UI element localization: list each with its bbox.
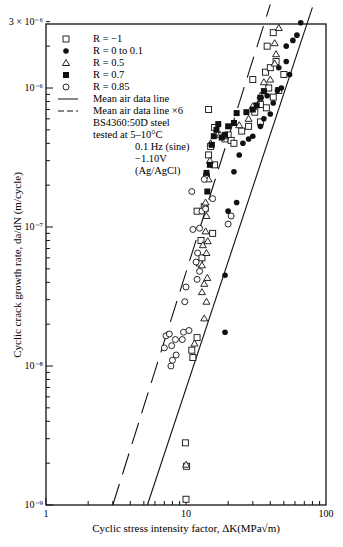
data-point bbox=[270, 94, 276, 100]
test-conditions-annotation: BS4360:50D steeltested at 5–10°C0.1 Hz (… bbox=[93, 117, 190, 177]
data-point bbox=[194, 335, 200, 341]
data-point bbox=[183, 496, 189, 502]
data-point bbox=[173, 352, 179, 358]
data-point bbox=[201, 315, 208, 321]
data-point bbox=[204, 189, 210, 195]
data-point bbox=[250, 133, 256, 139]
data-point bbox=[166, 331, 172, 337]
data-point bbox=[201, 176, 207, 182]
data-point bbox=[261, 116, 267, 122]
y-axis-title: Cyclic crack growth rate, da/dN (m/cycle… bbox=[11, 172, 24, 358]
crack-growth-chart: 1101003 × 10⁻⁶10⁻⁶10⁻⁷10⁻⁸10⁻⁹ R = −1R =… bbox=[0, 0, 343, 547]
data-point bbox=[183, 284, 189, 290]
legend-label: R = 0.5 bbox=[93, 57, 124, 68]
data-point bbox=[283, 43, 289, 49]
data-point bbox=[273, 51, 280, 57]
annotation-line: BS4360:50D steel bbox=[93, 117, 170, 128]
legend-label: R = −1 bbox=[93, 33, 122, 44]
data-point bbox=[186, 328, 192, 334]
x-axis-title: Cyclic stress intensity factor, ΔK(MPa√m… bbox=[92, 522, 280, 535]
data-point bbox=[294, 32, 300, 38]
annotation-line: −1.10V bbox=[135, 153, 167, 164]
plot-frame bbox=[46, 24, 326, 505]
data-point bbox=[201, 280, 208, 286]
data-point bbox=[209, 142, 215, 148]
data-point bbox=[240, 141, 246, 147]
y-tick-label: 3 × 10⁻⁶ bbox=[9, 16, 44, 27]
data-point bbox=[234, 110, 240, 116]
data-point bbox=[210, 196, 216, 202]
data-point bbox=[298, 20, 304, 26]
data-point bbox=[254, 102, 260, 108]
data-point bbox=[172, 337, 178, 343]
data-point bbox=[231, 120, 237, 126]
legend-label: R = 0.7 bbox=[93, 69, 124, 80]
data-point bbox=[215, 121, 221, 127]
data-point bbox=[204, 274, 211, 280]
legend-label: R = 0 to 0.1 bbox=[93, 45, 143, 56]
legend: R = −1R = 0 to 0.1R = 0.5R = 0.7R = 0.85… bbox=[58, 33, 183, 116]
reference-lines bbox=[113, 4, 313, 505]
data-point bbox=[234, 200, 240, 206]
data-point bbox=[222, 132, 228, 138]
data-point bbox=[179, 337, 185, 343]
data-point bbox=[264, 43, 270, 49]
data-point bbox=[275, 25, 282, 31]
legend-label: R = 0.85 bbox=[93, 81, 130, 92]
data-point bbox=[195, 250, 201, 256]
data-point bbox=[207, 162, 213, 168]
data-point bbox=[161, 345, 167, 351]
data-point bbox=[250, 77, 256, 83]
y-tick-label: 10⁻⁷ bbox=[25, 221, 44, 232]
data-point bbox=[222, 272, 228, 278]
data-point bbox=[228, 213, 234, 219]
data-point bbox=[225, 123, 231, 129]
data-point bbox=[231, 169, 237, 175]
data-point bbox=[231, 140, 237, 146]
data-point bbox=[267, 76, 274, 82]
data-point bbox=[236, 152, 242, 158]
data-point bbox=[243, 109, 249, 115]
data-point bbox=[271, 40, 278, 46]
mean-air-line bbox=[147, 7, 312, 505]
data-point bbox=[258, 124, 264, 130]
data-point bbox=[222, 329, 228, 335]
data-point bbox=[193, 259, 199, 265]
annotation-line: 0.1 Hz (sine) bbox=[135, 141, 190, 153]
data-point bbox=[270, 100, 276, 106]
mean-air-line-x6 bbox=[113, 4, 270, 505]
data-point bbox=[203, 170, 209, 176]
legend-filled-square-icon bbox=[63, 72, 69, 78]
data-point bbox=[168, 363, 174, 369]
annotation-line: tested at 5–10°C bbox=[93, 129, 163, 140]
data-point bbox=[182, 299, 188, 305]
data-point bbox=[246, 123, 252, 129]
x-tick-label: 100 bbox=[319, 508, 334, 519]
x-tick-label: 1 bbox=[44, 508, 49, 519]
data-point bbox=[190, 226, 196, 232]
legend-open-circle-icon bbox=[63, 84, 69, 90]
data-point bbox=[202, 199, 209, 205]
y-tick-label: 10⁻⁸ bbox=[25, 360, 44, 371]
data-point bbox=[211, 133, 217, 139]
legend-label: Mean air data line bbox=[93, 93, 169, 104]
y-tick-label: 10⁻⁹ bbox=[25, 499, 44, 510]
y-tick-label: 10⁻⁶ bbox=[25, 82, 44, 93]
data-point bbox=[279, 85, 285, 91]
x-tick-label: 10 bbox=[181, 508, 191, 519]
data-point bbox=[281, 72, 287, 78]
data-point bbox=[257, 95, 263, 101]
data-point bbox=[190, 355, 196, 361]
legend-filled-circle-icon bbox=[63, 48, 69, 54]
data-point bbox=[239, 128, 245, 134]
data-point bbox=[263, 105, 269, 111]
legend-open-triangle-icon bbox=[63, 60, 70, 66]
annotation-line: (Ag/AgCl) bbox=[135, 165, 181, 177]
data-point bbox=[206, 107, 212, 113]
data-point bbox=[225, 221, 231, 227]
legend-open-square-icon bbox=[63, 36, 69, 42]
data-point bbox=[189, 189, 195, 195]
data-point bbox=[210, 230, 216, 236]
data-point bbox=[204, 238, 211, 244]
data-point bbox=[283, 59, 289, 65]
